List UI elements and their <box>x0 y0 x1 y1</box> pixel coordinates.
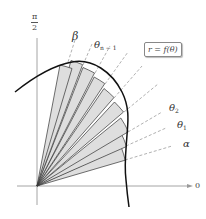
theta-n-minus-1-label: θn − 1 <box>94 40 117 51</box>
ray-beta <box>68 40 75 62</box>
polar-sector-diagram: π 2 0 r = f(θ) β θn − 1 θ2 θ1 α <box>0 0 206 219</box>
ray-theta1 <box>126 128 166 146</box>
ray-alpha <box>125 146 172 160</box>
ray-3 <box>128 112 162 132</box>
theta2-subscript: 2 <box>175 107 179 114</box>
ray-6 <box>105 52 128 84</box>
polar-axis-label: 0 <box>195 181 200 190</box>
theta1-label: θ1 <box>177 120 187 131</box>
polar-axis-arrow-icon <box>187 184 193 188</box>
beta-label: β <box>72 31 78 42</box>
vertical-axis-label-denominator: 2 <box>31 23 38 32</box>
theta2-label: θ2 <box>169 103 179 114</box>
theta1-subscript: 1 <box>183 124 187 131</box>
vertical-axis-label: π 2 <box>31 13 38 32</box>
ray-5 <box>114 66 142 98</box>
theta-n-minus-1-subscript: n − 1 <box>100 44 117 51</box>
ray-theta2 <box>124 84 158 112</box>
vertical-axis-label-numerator: π <box>31 13 38 23</box>
alpha-label: α <box>183 139 190 149</box>
equation-label: r = f(θ) <box>144 42 182 57</box>
